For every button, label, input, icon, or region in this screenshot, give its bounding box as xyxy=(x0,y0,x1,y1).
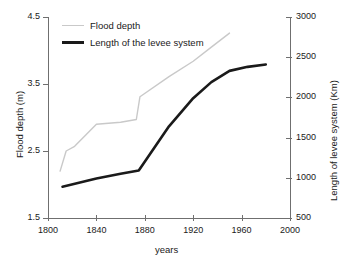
y-right-axis-line xyxy=(290,17,291,219)
x-tick-4 xyxy=(242,215,243,221)
x-axis-title: years xyxy=(155,244,178,255)
y-left-tick-label-3: 4.5 xyxy=(8,12,40,21)
legend-label-levee-length: Length of the levee system xyxy=(90,37,204,48)
y-right-tick-5 xyxy=(286,17,292,18)
y-right-tick-1 xyxy=(286,178,292,179)
legend-label-flood-depth: Flood depth xyxy=(90,20,140,31)
y-right-tick-label-3: 2000 xyxy=(296,92,330,101)
y-right-tick-label-1: 1000 xyxy=(296,173,330,182)
x-tick-label-0: 1800 xyxy=(30,226,66,235)
x-tick-5 xyxy=(290,215,291,221)
y-left-tick-3 xyxy=(43,17,49,18)
x-axis-line xyxy=(48,218,291,219)
y-right-tick-label-0: 500 xyxy=(296,213,330,222)
series-levee-length xyxy=(63,64,266,186)
x-tick-0 xyxy=(48,215,49,221)
y-right-tick-4 xyxy=(286,57,292,58)
flood-depth-line xyxy=(60,33,229,171)
y-right-tick-0 xyxy=(286,218,292,219)
x-tick-3 xyxy=(193,215,194,221)
series-flood-depth xyxy=(60,33,229,171)
y-right-tick-label-2: 1500 xyxy=(296,133,330,142)
legend-item-flood-depth: Flood depth xyxy=(62,17,204,34)
levee-length-line xyxy=(63,64,266,186)
y-right-tick-label-4: 2500 xyxy=(296,52,330,61)
x-tick-2 xyxy=(145,215,146,221)
y-left-tick-label-0: 1.5 xyxy=(8,213,40,222)
chart-figure: 1.52.53.54.55001000150020002500300018001… xyxy=(0,0,340,263)
y-right-tick-3 xyxy=(286,97,292,98)
legend-item-levee-length: Length of the levee system xyxy=(62,34,204,51)
legend-swatch-levee-length xyxy=(62,41,84,44)
chart-legend: Flood depth Length of the levee system xyxy=(62,17,204,51)
y-right-tick-label-5: 3000 xyxy=(296,12,330,21)
x-tick-label-2: 1880 xyxy=(127,226,163,235)
y-left-tick-2 xyxy=(43,84,49,85)
x-tick-label-1: 1840 xyxy=(78,226,114,235)
y-left-axis-title: Flood depth (m) xyxy=(14,91,25,158)
y-left-tick-label-2: 3.5 xyxy=(8,79,40,88)
y-right-tick-2 xyxy=(286,138,292,139)
x-tick-label-4: 1960 xyxy=(224,226,260,235)
x-tick-1 xyxy=(96,215,97,221)
y-right-axis-title: Length of levee system (Km) xyxy=(328,80,339,201)
x-tick-label-3: 1920 xyxy=(175,226,211,235)
x-tick-label-5: 2000 xyxy=(272,226,308,235)
y-left-axis-line xyxy=(48,17,49,219)
y-left-tick-1 xyxy=(43,151,49,152)
legend-swatch-flood-depth xyxy=(62,25,84,26)
